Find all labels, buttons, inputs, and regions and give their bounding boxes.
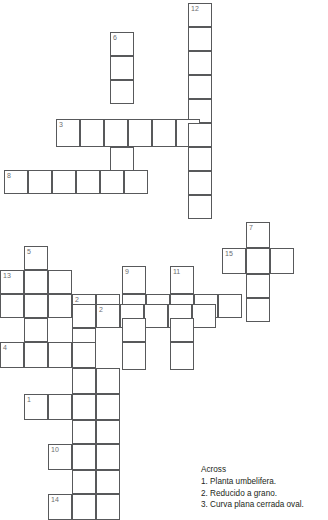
crossword-cell[interactable] bbox=[72, 342, 96, 368]
crossword-cell[interactable] bbox=[170, 342, 194, 370]
crossword-cell[interactable] bbox=[96, 444, 120, 470]
crossword-cell[interactable] bbox=[124, 170, 148, 194]
cell-number: 2 bbox=[75, 295, 79, 304]
cell-number: 6 bbox=[113, 33, 117, 42]
crossword-cell[interactable] bbox=[152, 119, 176, 147]
clues-across-list: 1. Planta umbelifera.2. Reducido a grano… bbox=[201, 476, 328, 510]
crossword-cell-1[interactable]: 1 bbox=[24, 394, 48, 420]
crossword-cell[interactable] bbox=[270, 248, 294, 274]
crossword-cell[interactable] bbox=[28, 170, 52, 194]
crossword-puzzle: 1263871551391122411014 Across 1. Planta … bbox=[0, 0, 328, 520]
crossword-cell[interactable] bbox=[24, 294, 48, 318]
crossword-cell-4[interactable]: 4 bbox=[0, 342, 24, 368]
cell-number: 14 bbox=[51, 495, 59, 504]
crossword-cell[interactable] bbox=[110, 80, 134, 104]
crossword-cell[interactable] bbox=[128, 119, 152, 147]
crossword-cell-11[interactable]: 11 bbox=[170, 266, 194, 294]
cell-number: 11 bbox=[173, 267, 180, 276]
clue-item[interactable]: 1. Planta umbelifera. bbox=[201, 476, 328, 487]
cell-number: 9 bbox=[125, 267, 129, 276]
clue-item[interactable]: 3. Curva plana cerrada oval. bbox=[201, 499, 328, 510]
cell-number: 4 bbox=[3, 343, 7, 352]
crossword-cell[interactable] bbox=[96, 420, 120, 444]
crossword-cell[interactable] bbox=[96, 368, 120, 394]
crossword-cell[interactable] bbox=[72, 470, 96, 494]
crossword-cell[interactable] bbox=[100, 170, 124, 194]
crossword-cell[interactable] bbox=[246, 274, 270, 298]
crossword-cell[interactable] bbox=[24, 318, 48, 342]
crossword-cell-8[interactable]: 8 bbox=[4, 170, 28, 194]
crossword-cell[interactable] bbox=[72, 444, 96, 470]
crossword-cell[interactable] bbox=[48, 294, 72, 318]
crossword-cell[interactable] bbox=[192, 304, 216, 328]
crossword-cell-14[interactable]: 14 bbox=[48, 494, 72, 520]
crossword-cell[interactable] bbox=[122, 318, 146, 342]
crossword-grid[interactable]: 1263871551391122411014 bbox=[0, 0, 328, 520]
cell-number: 1 bbox=[27, 395, 31, 404]
cell-number: 13 bbox=[3, 271, 11, 280]
cell-number: 15 bbox=[225, 249, 233, 258]
crossword-cell[interactable] bbox=[96, 494, 120, 520]
crossword-cell[interactable] bbox=[72, 494, 96, 520]
crossword-cell-10[interactable]: 10 bbox=[48, 444, 72, 470]
crossword-cell[interactable] bbox=[96, 470, 120, 494]
crossword-cell[interactable] bbox=[188, 51, 212, 75]
crossword-cell[interactable] bbox=[72, 394, 96, 420]
crossword-cell[interactable] bbox=[188, 195, 212, 219]
clues-across-heading: Across bbox=[201, 464, 328, 475]
crossword-cell-6[interactable]: 6 bbox=[110, 32, 134, 56]
crossword-cell[interactable] bbox=[80, 119, 104, 147]
clues-panel: Across 1. Planta umbelifera.2. Reducido … bbox=[201, 464, 328, 511]
crossword-cell[interactable] bbox=[188, 123, 212, 147]
cell-number: 7 bbox=[249, 223, 253, 232]
crossword-cell[interactable] bbox=[24, 270, 48, 294]
crossword-cell-3[interactable]: 3 bbox=[56, 119, 80, 147]
crossword-cell[interactable] bbox=[72, 420, 96, 444]
cell-number: 12 bbox=[191, 4, 199, 13]
crossword-cell[interactable] bbox=[52, 170, 76, 194]
crossword-cell[interactable] bbox=[48, 394, 72, 420]
cell-number: 3 bbox=[59, 120, 63, 129]
cell-number: 2 bbox=[99, 305, 103, 314]
crossword-cell[interactable] bbox=[188, 75, 212, 99]
crossword-cell[interactable] bbox=[48, 342, 72, 368]
crossword-cell[interactable] bbox=[122, 342, 146, 370]
crossword-cell[interactable] bbox=[0, 294, 24, 318]
crossword-cell[interactable] bbox=[24, 342, 48, 368]
crossword-cell[interactable] bbox=[72, 368, 96, 394]
crossword-cell[interactable] bbox=[246, 298, 270, 322]
crossword-cell[interactable] bbox=[170, 318, 194, 342]
crossword-cell[interactable] bbox=[104, 119, 128, 147]
crossword-cell[interactable] bbox=[110, 147, 134, 171]
crossword-cell-2[interactable]: 2 bbox=[96, 304, 120, 328]
crossword-cell[interactable] bbox=[96, 394, 120, 420]
crossword-cell-13[interactable]: 13 bbox=[0, 270, 24, 294]
crossword-cell-15[interactable]: 15 bbox=[222, 248, 246, 274]
cell-number: 8 bbox=[7, 171, 11, 180]
cell-number: 10 bbox=[51, 445, 59, 454]
crossword-cell-12[interactable]: 12 bbox=[188, 3, 212, 27]
crossword-cell[interactable] bbox=[188, 171, 212, 195]
crossword-cell[interactable] bbox=[76, 170, 100, 194]
cell-number: 5 bbox=[27, 247, 31, 256]
crossword-cell[interactable] bbox=[48, 270, 72, 294]
crossword-cell-5[interactable]: 5 bbox=[24, 246, 48, 270]
crossword-cell[interactable] bbox=[218, 294, 242, 318]
crossword-cell[interactable] bbox=[110, 56, 134, 80]
clue-item[interactable]: 2. Reducido a grano. bbox=[201, 488, 328, 499]
crossword-cell-9[interactable]: 9 bbox=[122, 266, 146, 294]
crossword-cell[interactable] bbox=[188, 27, 212, 51]
crossword-cell[interactable] bbox=[188, 147, 212, 171]
crossword-cell[interactable] bbox=[144, 304, 168, 328]
crossword-cell-7[interactable]: 7 bbox=[246, 222, 270, 248]
crossword-cell[interactable] bbox=[246, 248, 270, 274]
crossword-cell[interactable] bbox=[72, 304, 96, 328]
